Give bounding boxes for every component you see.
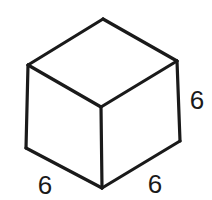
depth-label: 6 xyxy=(148,169,162,199)
width-label: 6 xyxy=(38,170,52,200)
edge-inner-right xyxy=(101,61,177,107)
cube-diagram: 6 6 6 xyxy=(0,0,212,200)
edge-center-vertical xyxy=(101,107,102,188)
cube xyxy=(26,19,180,188)
height-label: 6 xyxy=(190,85,204,115)
edge-right-vertical xyxy=(177,61,180,141)
edge-bottom-right xyxy=(102,141,180,188)
edge-top-right xyxy=(103,19,177,61)
edge-left-vertical xyxy=(26,65,28,148)
edge-top-left xyxy=(28,19,103,65)
edge-inner-left xyxy=(28,65,101,107)
